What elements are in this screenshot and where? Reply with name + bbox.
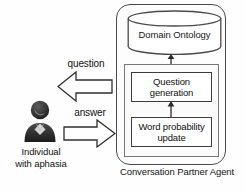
answer-flow-label: answer [63,107,117,118]
agent-caption: Conversation Partner Agent [112,166,242,177]
question-generation-box: Questiongeneration [131,72,212,102]
block-arrow-right-icon [63,119,116,148]
architecture-diagram: Domain Ontology Questiongeneration Word … [0,0,246,192]
word-probability-update-box: Word probabilityupdate [131,117,212,147]
user-label-line2: with aphasia [15,158,67,169]
up-arrow-icon [163,101,179,118]
question-generation-label: Questiongeneration [150,76,193,98]
block-arrow-left-icon [57,71,113,102]
user-label-line1: Individual [21,146,60,157]
question-flow-label: question [58,58,114,69]
person-avatar-icon [21,99,61,143]
user-label: Individual with aphasia [2,146,80,170]
word-probability-update-label: Word probabilityupdate [138,121,204,143]
domain-ontology-label: Domain Ontology [127,29,222,40]
